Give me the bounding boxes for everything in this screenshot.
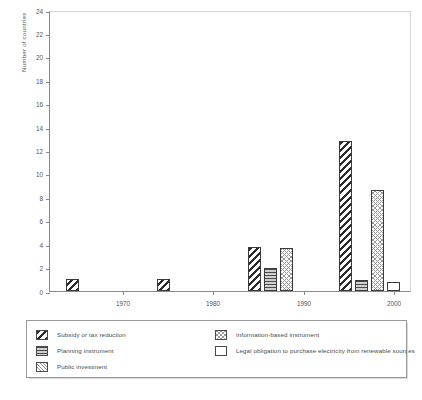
y-tick-label: 0 xyxy=(27,289,43,297)
legend-label: Public investment xyxy=(57,363,107,370)
legend-column-left: Subsidy or tax reductionPlanning instrum… xyxy=(36,327,206,375)
y-tick-mark xyxy=(46,82,50,83)
y-tick-mark xyxy=(46,152,50,153)
y-tick-mark xyxy=(46,35,50,36)
y-tick-label: 22 xyxy=(27,31,43,39)
y-tick-label: 10 xyxy=(27,171,43,179)
y-axis-title: Number of countries xyxy=(20,0,27,72)
legend-label: Information-based instrument xyxy=(236,331,319,338)
legend-swatch-diagonal-thick-icon xyxy=(36,330,48,340)
y-tick-label: 6 xyxy=(27,218,43,226)
y-tick-label: 2 xyxy=(27,265,43,273)
bar xyxy=(355,280,368,291)
x-tick-mark xyxy=(123,291,124,295)
bar xyxy=(371,190,384,291)
plot-area: Number of countries 02468101214161820222… xyxy=(49,11,411,292)
y-tick-label: 24 xyxy=(27,8,43,16)
y-tick-mark xyxy=(46,12,50,13)
y-tick-label: 16 xyxy=(27,101,43,109)
y-tick-label: 18 xyxy=(27,78,43,86)
y-tick-mark xyxy=(46,105,50,106)
bar xyxy=(387,282,400,291)
y-tick-label: 14 xyxy=(27,125,43,133)
y-tick-mark xyxy=(46,58,50,59)
x-tick-label: 1980 xyxy=(197,300,229,307)
y-tick-mark xyxy=(46,246,50,247)
y-tick-label: 8 xyxy=(27,195,43,203)
x-tick-label: 2000 xyxy=(378,300,410,307)
legend-label: Planning instrument xyxy=(57,347,114,354)
y-tick-mark xyxy=(46,129,50,130)
legend-swatch-horizontal-lines-icon xyxy=(36,346,48,356)
y-tick-mark xyxy=(46,199,50,200)
y-tick-mark xyxy=(46,222,50,223)
legend-swatch-cross-hatch-icon xyxy=(215,330,227,340)
legend-entry[interactable]: Planning instrument xyxy=(36,343,206,358)
x-tick-label: 1970 xyxy=(107,300,139,307)
bar xyxy=(280,248,293,291)
legend-entry[interactable]: Legal obligation to purchase electricity… xyxy=(215,343,410,358)
y-tick-label: 4 xyxy=(27,242,43,250)
y-tick-mark xyxy=(46,269,50,270)
bar xyxy=(264,268,277,291)
y-tick-label: 20 xyxy=(27,54,43,62)
bar xyxy=(248,247,261,291)
legend-entry[interactable]: Subsidy or tax reduction xyxy=(36,327,206,342)
bar xyxy=(339,141,352,291)
bar xyxy=(66,279,79,291)
x-tick-mark xyxy=(213,291,214,295)
x-tick-label: 1990 xyxy=(288,300,320,307)
x-tick-mark xyxy=(394,291,395,295)
y-tick-label: 12 xyxy=(27,148,43,156)
y-tick-mark xyxy=(46,175,50,176)
x-tick-mark xyxy=(304,291,305,295)
legend-label: Subsidy or tax reduction xyxy=(57,331,126,338)
bar-chart-figure: Number of countries 02468101214161820222… xyxy=(0,0,422,400)
y-tick-mark xyxy=(46,293,50,294)
legend-column-right: Information-based instrumentLegal obliga… xyxy=(215,327,410,359)
bar xyxy=(157,279,170,291)
legend-label: Legal obligation to purchase electricity… xyxy=(236,347,415,354)
legend-swatch-dots-icon xyxy=(215,346,227,356)
legend-entry[interactable]: Public investment xyxy=(36,359,206,374)
caption-sliver xyxy=(8,392,208,400)
chart-legend: Subsidy or tax reductionPlanning instrum… xyxy=(26,320,407,378)
legend-entry[interactable]: Information-based instrument xyxy=(215,327,410,342)
legend-swatch-diagonal-fine-icon xyxy=(36,362,48,372)
